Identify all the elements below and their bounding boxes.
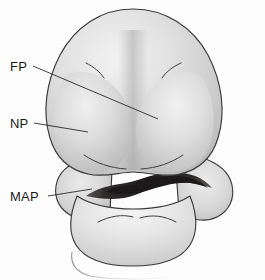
label-map: MAP [10,189,39,204]
labels-group: FP NP MAP [10,59,39,204]
figure-canvas: FP NP MAP [0,0,265,280]
label-fp: FP [10,59,27,74]
embryo-face-figure: FP NP MAP [0,0,265,280]
mandibular-prominence [71,196,196,266]
label-np: NP [10,116,28,131]
frontonasal-prominence-region [46,9,222,175]
